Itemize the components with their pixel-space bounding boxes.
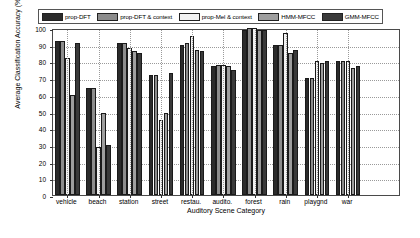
y-axis-tick [50,114,53,115]
y-axis-tick-label: 80 [39,59,46,66]
y-axis-tick [50,130,53,131]
bar [310,78,315,195]
gridline-vertical [317,30,318,195]
bar [293,50,298,195]
legend-label: HMM-MFCC [281,13,315,20]
y-axis-tick-label: 70 [39,76,46,83]
bar [122,43,127,195]
bar [262,30,267,195]
figure: prop-DFTprop-DFT & contextprop-Mel & con… [0,0,420,238]
y-axis-tick [50,164,53,165]
y-axis-tick-label: 60 [39,92,46,99]
y-axis-tick-label: 0 [42,193,46,200]
legend-entry: HMM-MFCC [258,13,315,21]
bar [55,41,60,195]
x-axis-title: Auditory Scene Category [52,207,400,214]
x-axis-tick-label: vehicle [56,198,77,205]
bar [211,66,216,195]
bar [137,53,142,195]
legend-swatch-icon [258,13,279,21]
y-axis-tick-label: 40 [39,126,46,133]
y-axis-tick [50,80,53,81]
x-axis-tick-label: playgnd [304,198,327,205]
chart-legend: prop-DFTprop-DFT & contextprop-Mel & con… [38,9,383,24]
bar [101,113,106,195]
bar [216,65,221,195]
bar [185,43,190,195]
y-axis-tick [50,63,53,64]
bar [247,28,252,195]
legend-label: GMM-MFCC [345,13,379,20]
y-axis-tick-label: 20 [39,159,46,166]
y-axis-title: Average Classification Accuracy (%) [14,0,21,136]
bar [325,61,330,195]
gridline-vertical [161,30,162,195]
legend-entry: GMM-MFCC [322,13,379,21]
bar [180,45,185,195]
y-axis-labels: 0102030405060708090100 [0,29,50,196]
bar [75,43,80,195]
bar [320,63,325,195]
bar [154,75,159,195]
bar [164,113,169,195]
y-axis-tick [50,180,53,181]
bar [288,53,293,195]
x-axis-tick-label: street [152,198,169,205]
bar [200,51,205,195]
bar [356,66,361,195]
x-axis-tick-label: restau. [181,198,201,205]
bar [195,50,200,195]
bar [305,78,310,195]
gridline-vertical [192,30,193,195]
gridline-vertical [348,30,349,195]
legend-swatch-icon [179,13,200,21]
gridline-vertical [255,30,256,195]
gridline-vertical [67,30,68,195]
bar [351,68,356,195]
y-axis-tick-label: 30 [39,142,46,149]
bar [91,88,96,195]
bar [132,51,137,195]
y-axis-tick [50,30,53,31]
bar [117,43,122,195]
x-axis-tick-label: audito. [212,198,232,205]
bar [86,88,91,195]
legend-swatch-icon [322,13,343,21]
y-axis-tick-label: 10 [39,176,46,183]
y-axis-tick-label: 100 [35,26,46,33]
x-axis-tick-label: beach [89,198,107,205]
bar [242,30,247,195]
gridline-vertical [286,30,287,195]
legend-entry: prop-DFT & context [97,13,172,21]
bar [257,30,262,195]
legend-entry: prop-DFT [42,13,91,21]
legend-entry: prop-Mel & context [179,13,252,21]
bar [70,95,75,195]
y-axis-tick [50,147,53,148]
y-axis-tick [50,47,53,48]
bar [278,45,283,195]
bar [341,61,346,195]
bar [169,73,174,195]
x-axis-tick-label: rain [279,198,290,205]
bar [336,61,341,195]
bar [106,145,111,195]
legend-swatch-icon [97,13,118,21]
x-axis-tick-label: war [342,198,353,205]
gridline-vertical [130,30,131,195]
x-axis-tick-label: forest [245,198,262,205]
bar [60,41,65,195]
bar [149,75,154,195]
bar [226,66,231,195]
legend-swatch-icon [42,13,63,21]
legend-label: prop-Mel & context [202,13,252,20]
legend-label: prop-DFT [65,13,91,20]
x-axis-tick-label: station [119,198,138,205]
gridline-vertical [223,30,224,195]
y-axis-tick-label: 50 [39,109,46,116]
bar [231,70,236,195]
bar [273,45,278,195]
legend-label: prop-DFT & context [120,13,172,20]
gridline-vertical [99,30,100,195]
y-axis-tick-label: 90 [39,42,46,49]
